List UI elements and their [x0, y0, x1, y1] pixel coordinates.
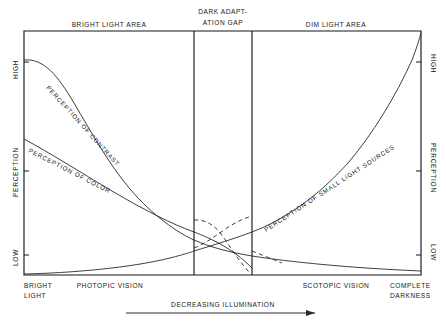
bottom-label-complete-line2: DARKNESS	[390, 292, 431, 299]
left-axis-labels: HIGH PERCEPTION LOW	[12, 60, 19, 266]
arrow-caption: DECREASING ILLUMINATION	[171, 301, 275, 308]
region-label-dim-light-area: DIM LIGHT AREA	[306, 21, 366, 28]
data-curves	[24, 33, 421, 274]
bottom-labels: BRIGHT LIGHT PHOTOPIC VISION SCOTOPIC VI…	[24, 282, 431, 299]
plot-frame	[24, 31, 421, 275]
bottom-label-scotopic-vision: SCOTOPIC VISION	[303, 282, 370, 289]
bottom-label-complete-line1: COMPLETE	[390, 282, 431, 289]
bottom-label-bright-line2: LIGHT	[24, 292, 46, 299]
decreasing-illumination-arrow: DECREASING ILLUMINATION	[126, 301, 315, 316]
axis-label-left-high: HIGH	[12, 60, 19, 79]
perception-vs-illumination-diagram: BRIGHT LIGHT AREA DARK ADAPT- ATION GAP …	[0, 0, 446, 322]
axis-label-right-high: HIGH	[430, 54, 437, 73]
bottom-label-photopic-vision: PHOTOPIC VISION	[77, 282, 144, 289]
region-label-dark-adaptation-gap-line2: ATION GAP	[203, 19, 243, 26]
figure-canvas: BRIGHT LIGHT AREA DARK ADAPT- ATION GAP …	[0, 0, 446, 322]
curve-label-color: PERCEPTION OF COLOR	[28, 147, 113, 195]
curve-perception-of-small-light-sources	[24, 33, 421, 274]
curve-label-contrast: PERCEPTION OF CONTRAST	[45, 84, 121, 168]
region-headers: BRIGHT LIGHT AREA DARK ADAPT- ATION GAP …	[72, 8, 367, 28]
arrow-head-icon	[306, 310, 315, 316]
right-axis-labels: HIGH PERCEPTION LOW	[430, 54, 437, 261]
region-label-dark-adaptation-gap-line1: DARK ADAPT-	[198, 8, 248, 15]
curve-dashed-rod-branch-descending	[194, 220, 249, 272]
axis-label-right-perception: PERCEPTION	[430, 143, 437, 193]
curve-label-small-light-sources: PERCEPTION OF SMALL LIGHT SOURCES	[263, 143, 396, 233]
curve-labels: PERCEPTION OF CONTRAST PERCEPTION OF COL…	[28, 84, 396, 233]
axis-label-left-perception: PERCEPTION	[12, 147, 19, 197]
axis-label-left-low: LOW	[12, 249, 19, 266]
frame-rect	[24, 31, 421, 275]
axis-label-right-low: LOW	[430, 244, 437, 261]
bottom-label-bright-line1: BRIGHT	[24, 282, 52, 289]
axis-ticks	[24, 62, 421, 255]
region-label-bright-light-area: BRIGHT LIGHT AREA	[72, 21, 147, 28]
